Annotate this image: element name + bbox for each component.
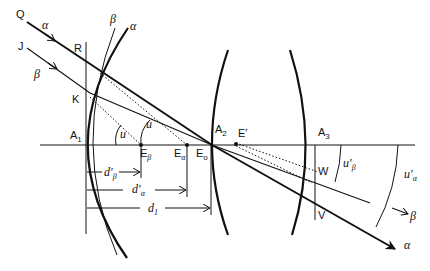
lens2-left-surface <box>212 50 228 235</box>
alpha-surface-curve <box>88 28 128 258</box>
label-e-o: Eo <box>196 147 208 162</box>
label-alpha-ray-in: α <box>42 18 49 32</box>
beta-ray-arrow-mid <box>48 63 57 69</box>
label-beta-ray-out: β <box>409 209 416 223</box>
label-u1: u <box>120 127 126 141</box>
lens2-right-surface <box>290 50 306 235</box>
label-alpha-ray-out: α <box>404 238 411 252</box>
label-a3: A3 <box>318 126 330 141</box>
beta-ray-outgoing <box>212 145 370 203</box>
label-j: J <box>18 40 24 52</box>
label-beta-surface: β <box>109 12 116 26</box>
label-r: R <box>74 42 82 54</box>
label-e-alpha: Eα <box>174 147 186 162</box>
point-e-prime <box>234 142 238 146</box>
label-a1: A1 <box>70 129 82 144</box>
label-k: K <box>72 93 80 105</box>
beta-out-arrow <box>392 208 408 214</box>
label-w: W <box>318 165 329 177</box>
label-alpha-surface: α <box>130 19 137 33</box>
dotted-line-alpha <box>100 73 187 145</box>
label-e-prime: E′ <box>238 127 247 139</box>
label-u-prime-beta: u′β <box>343 156 356 172</box>
label-beta-ray-in: β <box>33 67 40 81</box>
label-d1: d1 <box>148 201 158 217</box>
angle-arc-u-prime-alpha <box>376 145 398 227</box>
label-d-prime-alpha: d′α <box>132 182 146 198</box>
label-e-beta: Eβ <box>140 147 151 162</box>
optical-diagram: Q J R K α β β α A1 A2 A3 u u Eβ Eα Eo E′… <box>0 0 430 271</box>
label-u2: u <box>146 117 152 131</box>
angle-arc-u-prime-beta <box>335 145 341 182</box>
label-u-prime-alpha: u′α <box>404 167 418 183</box>
alpha-ray-outgoing <box>212 145 395 249</box>
label-a2: A2 <box>215 123 227 138</box>
label-v: V <box>318 209 326 221</box>
alpha-ray-arrow-mid <box>45 34 55 41</box>
label-q: Q <box>16 8 25 20</box>
label-d-prime-beta: d′β <box>104 165 117 181</box>
